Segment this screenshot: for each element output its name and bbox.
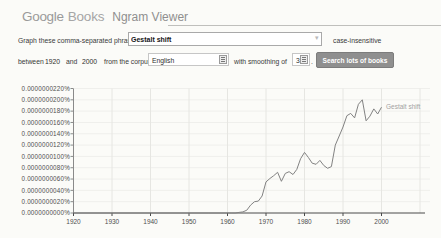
ngram-chart: 0.0000000220%0.0000000200%0.0000000180%0… [0, 85, 441, 238]
y-tick-label: 0.0000000200% [22, 96, 71, 103]
smoothing-select[interactable]: 3 [292, 53, 310, 66]
header: GoogleBooksNgram Viewer [22, 7, 188, 25]
x-tick-label: 1930 [105, 218, 120, 225]
page-title: Ngram Viewer [112, 10, 188, 24]
y-tick-label: 0.0000000220% [22, 85, 71, 92]
google-logo[interactable]: Google [22, 9, 64, 24]
year-start-field[interactable]: 1920 [45, 58, 60, 65]
x-tick-label: 1940 [143, 218, 158, 225]
books-logo[interactable]: Books [68, 9, 105, 24]
x-tick-label: 1950 [182, 218, 197, 225]
y-tick-label: 0.0000000120% [22, 141, 71, 148]
smoothing-label: with smoothing of [234, 58, 287, 65]
and-label: and [66, 58, 77, 65]
y-tick-label: 0.0000000140% [22, 130, 71, 137]
y-tick-label: 0.0000000160% [22, 119, 71, 126]
chart-canvas: 0.0000000220%0.0000000200%0.0000000180%0… [0, 85, 441, 238]
ngram-viewer-app: GoogleBooksNgram Viewer Graph these comm… [0, 0, 441, 238]
corpus-value: English [152, 57, 174, 64]
period-label: . [311, 58, 313, 65]
y-tick-label: 0.0000000020% [22, 198, 71, 205]
x-tick-label: 2000 [374, 218, 389, 225]
y-tick-label: 0.0000000100% [22, 153, 71, 160]
chevron-down-icon: ▾ [315, 34, 319, 42]
dropdown-icon [300, 55, 308, 64]
phrases-input[interactable] [131, 34, 309, 44]
x-tick-label: 1960 [220, 218, 235, 225]
x-tick-label: 1990 [336, 218, 351, 225]
series-label: Gestalt shift [386, 103, 421, 110]
between-label: between [18, 58, 44, 65]
x-tick-label: 1970 [259, 218, 274, 225]
y-tick-label: 0.0000000040% [22, 187, 71, 194]
y-tick-label: 0.0000000000% [22, 209, 71, 216]
corpus-select[interactable]: English [148, 53, 229, 66]
case-insensitive-label[interactable]: case-insensitive [333, 37, 381, 44]
x-tick-label: 1980 [297, 218, 312, 225]
y-tick-label: 0.0000000060% [22, 175, 71, 182]
dropdown-icon [219, 55, 227, 64]
y-tick-label: 0.0000000080% [22, 164, 71, 171]
phrases-label: Graph these comma-separated phrases: [18, 37, 140, 44]
y-tick-label: 0.0000000180% [22, 107, 71, 114]
corpus-label: from the corpus [104, 58, 151, 65]
phrases-input-wrap: ▾ [128, 32, 322, 46]
search-button[interactable]: Search lots of books [316, 52, 394, 68]
x-tick-label: 1920 [66, 218, 81, 225]
header-divider [168, 25, 441, 26]
year-end-field[interactable]: 2000 [82, 58, 97, 65]
